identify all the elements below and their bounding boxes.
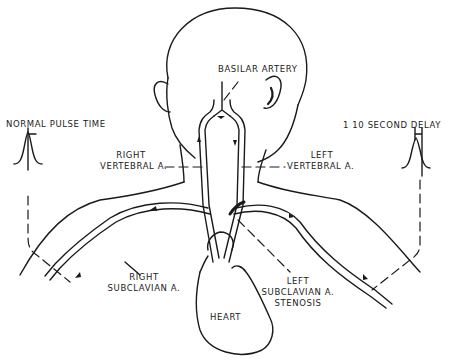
- label-heart: HEART: [210, 312, 241, 323]
- label-left-vertebral-line1: LEFT: [287, 150, 357, 161]
- shoulder-right: [258, 182, 420, 272]
- label-right-vertebral: RIGHT VERTEBRAL A.: [100, 150, 162, 172]
- label-normal-pulse-time: NORMAL PULSE TIME: [6, 119, 106, 130]
- ear-right-inner: [268, 88, 272, 104]
- arrow-icon: [197, 136, 201, 142]
- right-subclavian-artery-b: [50, 209, 210, 280]
- label-right-vertebral-line2: VERTEBRAL A.: [100, 161, 162, 172]
- label-left-subclavian-line2: SUBCLAVIAN A.: [258, 287, 338, 298]
- label-second-delay: 1 10 SECOND DELAY: [343, 120, 441, 131]
- label-right-vertebral-line1: RIGHT: [100, 150, 162, 161]
- heart-left-contour: [200, 256, 208, 272]
- label-left-subclavian-line1: LEFT: [258, 276, 338, 287]
- delayed-pulse-waveform: [402, 138, 430, 168]
- dashed-line-left-pulse: [28, 196, 70, 282]
- dashed-line-right-pulse: [372, 180, 420, 290]
- label-right-subclavian-line1: RIGHT: [103, 272, 185, 283]
- leader-left-subclavian: [238, 220, 290, 272]
- head-outline: [167, 8, 307, 105]
- head-lower-left: [167, 78, 195, 158]
- arrow-icon: [217, 116, 225, 119]
- leader-basilar: [224, 82, 238, 100]
- label-right-subclavian-line2: SUBCLAVIAN A.: [103, 283, 185, 294]
- aortic-arch: [208, 232, 234, 250]
- label-basilar-artery: BASILAR ARTERY: [218, 64, 298, 75]
- label-left-vertebral-line2: VERTEBRAL A.: [287, 161, 357, 172]
- arrow-icon: [363, 274, 368, 280]
- label-left-subclavian: LEFT SUBCLAVIAN A. STENOSIS: [258, 276, 338, 309]
- arrow-icon: [75, 272, 81, 278]
- arrow-icon: [233, 140, 237, 146]
- subclavian-steal-illustration: [0, 0, 451, 362]
- label-right-subclavian: RIGHT SUBCLAVIAN A.: [103, 272, 185, 294]
- label-left-subclavian-line3: STENOSIS: [258, 298, 338, 309]
- label-left-vertebral: LEFT VERTEBRAL A.: [287, 150, 357, 172]
- neck-right: [258, 150, 266, 182]
- basilar-artery: [214, 82, 230, 116]
- neck-left: [180, 145, 184, 182]
